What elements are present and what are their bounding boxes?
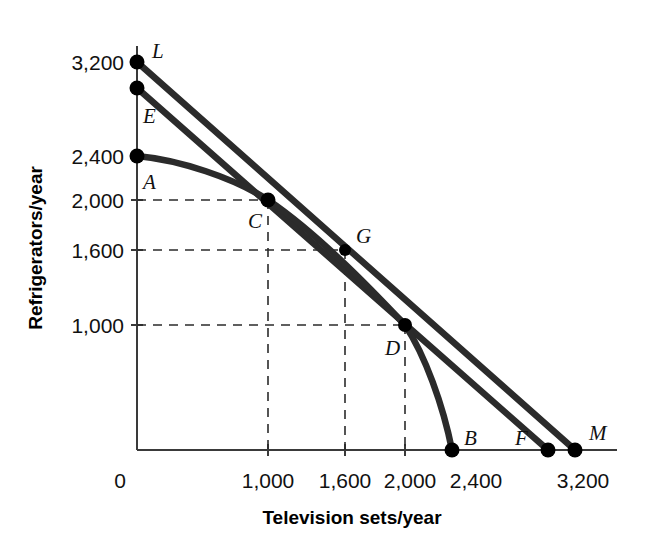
point-label-M: M xyxy=(588,421,608,445)
data-point-L xyxy=(130,55,145,70)
y-tick-label-1000: 1,000 xyxy=(71,314,124,337)
x-axis-title: Television sets/year xyxy=(262,507,442,528)
point-label-A: A xyxy=(141,170,156,194)
y-tick-label-2400: 2,400 xyxy=(71,145,124,168)
data-point-M xyxy=(568,443,583,458)
data-point-D xyxy=(398,318,412,332)
y-tick-labels-group: 3,200 2,400 2,000 1,600 1,000 xyxy=(71,51,124,337)
x-tick-label-1000: 1,000 xyxy=(242,469,295,492)
data-point-A xyxy=(130,149,145,164)
y-tick-label-3200: 3,200 xyxy=(71,51,124,74)
point-label-F: F xyxy=(514,426,528,450)
ppf-chart: L E A C G D B F M 3,200 2,400 2,000 1,60… xyxy=(0,0,663,546)
data-point-C xyxy=(261,193,276,208)
x-tick-label-2000: 2,000 xyxy=(384,469,437,492)
data-point-F xyxy=(541,443,556,458)
point-labels-group: L E A C G D B F M xyxy=(141,39,608,450)
point-label-E: E xyxy=(142,104,156,128)
x-tick-labels-group: 0 1,000 1,600 2,000 2,400 3,200 xyxy=(114,469,609,492)
point-label-B: B xyxy=(464,426,477,450)
x-tick-label-3200: 3,200 xyxy=(557,469,610,492)
y-tick-label-1600: 1,600 xyxy=(71,239,124,262)
data-point-B xyxy=(445,443,460,458)
chart-page: L E A C G D B F M 3,200 2,400 2,000 1,60… xyxy=(0,0,663,546)
data-point-G xyxy=(339,244,351,256)
axes-group xyxy=(137,46,617,450)
point-label-G: G xyxy=(356,224,371,248)
point-label-L: L xyxy=(151,39,164,63)
x-tick-label-0: 0 xyxy=(114,469,126,492)
x-tick-label-2400: 2,400 xyxy=(450,469,503,492)
point-label-D: D xyxy=(384,336,400,360)
data-point-E xyxy=(130,81,145,96)
price-line-lm xyxy=(137,62,575,450)
y-axis-title: Refrigerators/year xyxy=(25,166,46,330)
x-tick-label-1600: 1,600 xyxy=(319,469,372,492)
price-line-ef xyxy=(137,88,548,450)
point-label-C: C xyxy=(248,209,263,233)
y-tick-label-2000: 2,000 xyxy=(71,189,124,212)
